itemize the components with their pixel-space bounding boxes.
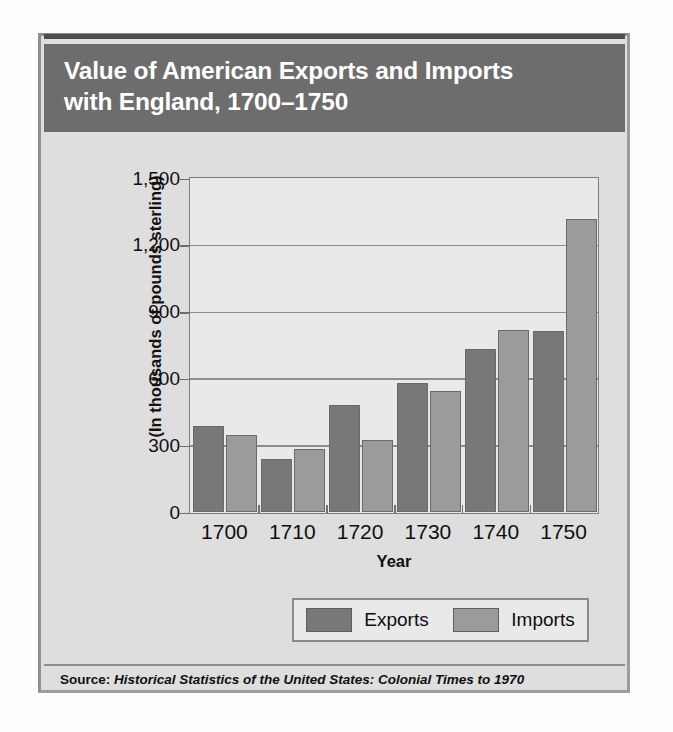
x-tick-mark [258, 505, 260, 513]
y-tick-label: 600 [60, 368, 180, 390]
top-rule [44, 34, 625, 39]
x-tick-mark [394, 505, 396, 513]
x-tick-mark [530, 505, 532, 513]
bar-imports-1750 [566, 219, 597, 512]
source-divider [44, 664, 625, 666]
legend-label-imports: Imports [511, 609, 574, 631]
y-tick-label: 1,500 [60, 168, 180, 190]
y-tick-label: 300 [60, 435, 180, 457]
bar-imports-1700 [226, 435, 257, 512]
source-label: Source: [60, 672, 110, 687]
y-tick-mark [180, 312, 189, 314]
bar-group [327, 180, 395, 512]
bar-group [259, 180, 327, 512]
bar-exports-1750 [533, 331, 564, 511]
source-title: Historical Statistics of the United Stat… [114, 672, 524, 687]
legend-label-exports: Exports [364, 609, 428, 631]
y-tick-label: 0 [60, 502, 180, 524]
y-tick-mark [180, 379, 189, 381]
y-tick-label: 900 [60, 301, 180, 323]
bar-series-container [192, 180, 597, 512]
x-axis-label: Year [189, 552, 599, 571]
bar-group [395, 180, 463, 512]
bar-imports-1710 [294, 449, 325, 511]
plot-area [189, 177, 599, 514]
bar-imports-1730 [430, 391, 461, 511]
chart-legend: Exports Imports [292, 598, 589, 642]
x-tick-mark [326, 505, 328, 513]
bar-exports-1720 [329, 405, 360, 512]
bar-imports-1740 [498, 330, 529, 511]
legend-item-exports: Exports [306, 608, 428, 632]
y-tick-mark [180, 446, 189, 448]
chart-body: (In thousands of pounds sterling) 030060… [44, 132, 625, 660]
source-line: Source: Historical Statistics of the Uni… [60, 672, 524, 687]
bar-exports-1710 [261, 459, 292, 511]
bar-exports-1700 [193, 426, 224, 512]
page-title: Value of American Exports and Imports wi… [64, 55, 625, 117]
legend-swatch-imports [453, 608, 499, 632]
x-tick-mark [462, 505, 464, 513]
y-tick-label: 1,200 [60, 234, 180, 256]
bar-group [192, 180, 260, 512]
title-banner: Value of American Exports and Imports wi… [44, 44, 625, 132]
bar-exports-1730 [397, 383, 428, 511]
bar-exports-1740 [465, 349, 496, 512]
y-tick-mark [180, 179, 189, 181]
bar-group [531, 180, 599, 512]
chart-page: Value of American Exports and Imports wi… [0, 0, 673, 732]
bar-group [463, 180, 531, 512]
y-tick-mark [180, 245, 189, 247]
legend-item-imports: Imports [453, 608, 574, 632]
x-tick-label: 1750 [509, 520, 619, 544]
bar-imports-1720 [362, 440, 393, 511]
legend-swatch-exports [306, 608, 352, 632]
y-tick-mark [180, 513, 189, 515]
